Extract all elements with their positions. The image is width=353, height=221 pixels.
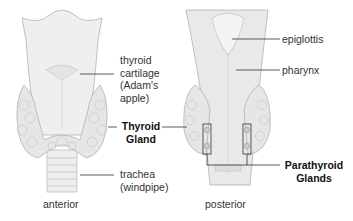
label-epiglottis: epiglottis [282, 33, 323, 46]
caption-anterior: anterior [43, 198, 79, 211]
label-thyroid-cartilage: thyroid cartilage (Adam's apple) [120, 54, 160, 104]
caption-posterior: posterior [205, 198, 246, 211]
trachea-illustration [47, 150, 77, 192]
label-thyroid-gland: Thyroid Gland [117, 120, 165, 145]
label-pharynx: pharynx [282, 64, 319, 77]
label-trachea: trachea (windpipe) [120, 168, 168, 193]
label-parathyroid-glands: Parathyroid Glands [280, 159, 348, 184]
posterior-view [172, 10, 280, 185]
